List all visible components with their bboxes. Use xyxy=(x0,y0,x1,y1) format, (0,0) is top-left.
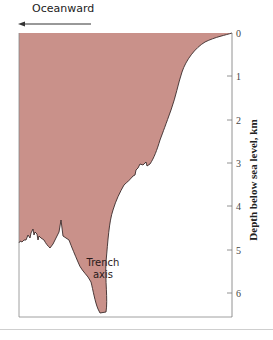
depth-axis-label: Depth below sea level, km xyxy=(247,119,259,240)
tick-label-3: 3 xyxy=(236,158,241,169)
bottom-divider xyxy=(0,329,273,330)
tick-label-0: 0 xyxy=(236,28,241,39)
trench-axis-annotation: Trench axis xyxy=(80,257,126,281)
depth-axis-ticks xyxy=(227,76,232,293)
tick-label-2: 2 xyxy=(236,115,241,126)
annotation-line-2: axis xyxy=(80,269,126,281)
annotation-line-1: Trench xyxy=(80,257,126,269)
bathymetric-profile-chart: 0 1 2 3 4 5 6 xyxy=(0,0,273,340)
tick-label-6: 6 xyxy=(236,288,241,299)
tick-label-4: 4 xyxy=(236,201,241,212)
tick-label-1: 1 xyxy=(236,71,241,82)
tick-label-5: 5 xyxy=(236,245,241,256)
